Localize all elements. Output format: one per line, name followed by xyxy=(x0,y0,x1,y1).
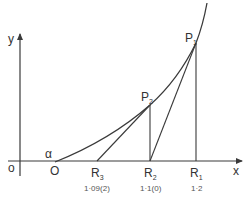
origin-label: o xyxy=(8,161,15,175)
x-axis-label: x xyxy=(233,164,239,178)
point-r3-label: R3 xyxy=(91,166,104,181)
point-p2-label: P2 xyxy=(141,90,153,105)
r1-value: 1·2 xyxy=(191,184,203,193)
curve xyxy=(55,3,207,162)
y-axis-label: y xyxy=(8,32,14,46)
curve-start-label: O xyxy=(50,164,59,178)
diagram-canvas: y x o O α P1 P2 R3 R2 R1 1·09(2) 1·1(0) … xyxy=(0,0,250,200)
tangent-r2-p1 xyxy=(150,43,196,161)
r3-value: 1·09(2) xyxy=(84,184,110,193)
point-r2-label: R2 xyxy=(144,166,157,181)
point-r1-label: R1 xyxy=(190,166,203,181)
angle-alpha-label: α xyxy=(45,147,52,161)
point-p1-label: P1 xyxy=(185,31,197,46)
r2-value: 1·1(0) xyxy=(140,184,162,193)
tangent-r3-p2 xyxy=(97,105,150,161)
